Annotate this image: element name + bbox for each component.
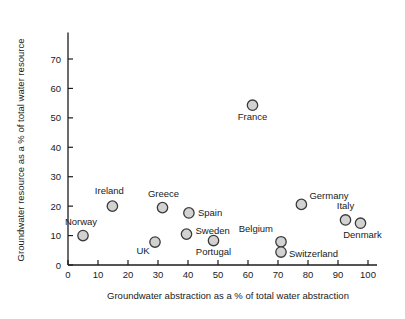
x-tick-label: 20 xyxy=(123,269,134,280)
data-point-label: Switzerland xyxy=(289,248,338,259)
x-tick-label: 30 xyxy=(153,269,164,280)
scatter-chart-figure: 0102030405060708090100 010203040506070 N… xyxy=(0,0,405,319)
x-tick-label: 50 xyxy=(213,269,224,280)
y-tick-label: 40 xyxy=(50,142,61,153)
data-point-marker xyxy=(276,247,286,257)
data-point-marker xyxy=(296,199,306,209)
data-point-marker xyxy=(276,237,286,247)
data-point-marker xyxy=(184,208,194,218)
chart-canvas: 0102030405060708090100 010203040506070 N… xyxy=(0,0,405,319)
data-point-label: Greece xyxy=(148,188,179,199)
data-point-marker xyxy=(150,237,160,247)
y-tick-label: 30 xyxy=(50,171,61,182)
y-tick-label: 0 xyxy=(56,260,61,271)
data-point-label: Spain xyxy=(198,207,222,218)
data-point-label: Belgium xyxy=(239,223,273,234)
y-tick-label: 70 xyxy=(50,54,61,65)
x-tick-label: 40 xyxy=(183,269,194,280)
x-axis-ticks: 0102030405060708090100 xyxy=(65,260,376,280)
data-point-marker xyxy=(157,202,167,212)
y-axis-ticks: 010203040506070 xyxy=(50,54,73,271)
data-point-label: Denmark xyxy=(343,229,382,240)
x-tick-label: 70 xyxy=(273,269,284,280)
data-point-label: Norway xyxy=(65,216,97,227)
data-point-marker xyxy=(247,100,257,110)
data-point-label: France xyxy=(238,111,268,122)
data-point-label: Portugal xyxy=(196,246,231,257)
data-point-marker xyxy=(340,215,350,225)
data-point-label: UK xyxy=(136,245,150,256)
data-point-marker xyxy=(355,218,365,228)
x-tick-label: 90 xyxy=(333,269,344,280)
data-point-marker xyxy=(107,201,117,211)
data-point-label: Sweden xyxy=(196,225,230,236)
y-axis-title: Groundwater resource as a % of total wat… xyxy=(15,39,26,262)
x-tick-label: 0 xyxy=(65,269,70,280)
data-point-marker xyxy=(78,230,88,240)
y-tick-label: 50 xyxy=(50,112,61,123)
y-tick-label: 60 xyxy=(50,83,61,94)
y-tick-label: 10 xyxy=(50,230,61,241)
x-tick-label: 80 xyxy=(303,269,314,280)
x-axis-title: Groundwater abstraction as a % of total … xyxy=(107,290,349,301)
data-point-labels: NorwayIrelandUKGreeceSpainSwedenPortugal… xyxy=(65,111,382,259)
data-point-marker xyxy=(181,229,191,239)
data-point-label: Ireland xyxy=(95,185,124,196)
data-point-marker xyxy=(208,235,218,245)
data-point-label: Italy xyxy=(337,200,355,211)
x-tick-label: 100 xyxy=(360,269,376,280)
x-tick-label: 10 xyxy=(93,269,104,280)
x-tick-label: 60 xyxy=(243,269,254,280)
y-tick-label: 20 xyxy=(50,201,61,212)
